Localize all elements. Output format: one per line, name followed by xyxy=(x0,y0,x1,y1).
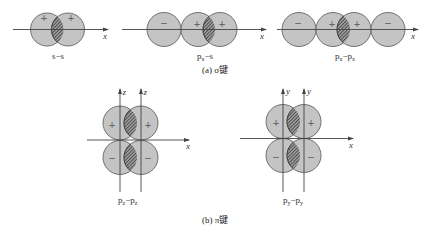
x-axis-label: x xyxy=(185,141,190,151)
x-axis-label: x xyxy=(102,31,107,41)
py-py-label: py−py xyxy=(283,195,303,206)
orbital-overlap-figure: + + x s−s − + + x px−s − + + − x px−px xyxy=(0,0,426,235)
x-axis-label: x xyxy=(410,31,415,41)
sigma-caption: (a) σ键 xyxy=(202,64,228,75)
sigma-s-s-diagram: + + x s−s xyxy=(13,13,108,61)
y-axis-label: y xyxy=(285,86,290,96)
px-px-label: px−px xyxy=(335,51,355,62)
plus-sign: + xyxy=(193,19,201,29)
pi-pz-pz-diagram: z z x + + − − pz−pz xyxy=(87,87,190,206)
minus-sign: − xyxy=(294,18,302,28)
plus-sign: + xyxy=(307,118,315,128)
plus-sign: + xyxy=(144,120,152,130)
x-axis-label: x xyxy=(259,31,264,41)
px-s-label: px−s xyxy=(197,51,214,62)
plus-sign: + xyxy=(272,118,280,128)
minus-sign: − xyxy=(160,18,168,28)
plus-sign: + xyxy=(108,120,116,130)
sigma-px-s-diagram: − + + x px−s xyxy=(122,13,266,63)
plus-sign: + xyxy=(40,13,48,23)
x-axis-label: x xyxy=(348,140,353,150)
plus-sign: + xyxy=(67,13,75,23)
plus-sign: + xyxy=(218,19,226,29)
minus-sign: − xyxy=(108,153,116,163)
sigma-px-px-diagram: − + + − x px−px xyxy=(277,13,418,63)
s-s-label: s−s xyxy=(52,51,65,61)
pz-pz-label: pz−pz xyxy=(118,195,138,206)
minus-sign: − xyxy=(272,152,280,162)
pi-py-py-diagram: y y x + + − − py−py xyxy=(240,86,353,206)
minus-sign: − xyxy=(384,18,392,28)
y-axis-label: y xyxy=(306,86,311,96)
plus-sign: + xyxy=(328,19,336,29)
plus-sign: + xyxy=(353,19,361,29)
minus-sign: − xyxy=(144,153,152,163)
z-axis-label: z xyxy=(143,87,148,97)
minus-sign: − xyxy=(307,152,315,162)
pi-caption: (b) π键 xyxy=(202,214,228,225)
z-axis-label: z xyxy=(122,87,127,97)
